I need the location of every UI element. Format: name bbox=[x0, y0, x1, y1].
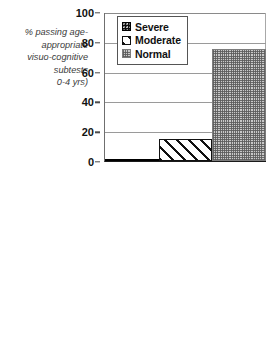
legend-label-severe: Severe bbox=[135, 21, 169, 33]
legend-label-normal: Normal bbox=[135, 48, 171, 60]
y-tick-mark bbox=[95, 161, 100, 162]
legend-swatch-severe-icon bbox=[122, 22, 131, 31]
y-tick-label: 80 bbox=[82, 37, 94, 49]
y-tick-label: 60 bbox=[82, 67, 94, 79]
bar-normal bbox=[212, 49, 266, 161]
y-tick-mark bbox=[95, 42, 100, 43]
legend-item-normal: Normal bbox=[122, 47, 181, 61]
y-tick-mark bbox=[95, 72, 100, 73]
legend-swatch-normal-icon bbox=[122, 49, 131, 58]
chart-panel-bottom: % passing 50% or more visuo-cognitive su… bbox=[0, 175, 277, 350]
y-tick-label: 0 bbox=[88, 156, 94, 168]
bar-severe bbox=[105, 159, 159, 161]
y-tick-mark bbox=[95, 12, 100, 13]
legend-item-severe: Severe bbox=[122, 20, 181, 34]
y-tick-label: 40 bbox=[82, 96, 94, 108]
chart-legend: Severe Moderate Normal bbox=[117, 16, 188, 65]
y-axis-ticks-top: 020406080100 bbox=[62, 13, 100, 162]
y-tick-label: 100 bbox=[76, 7, 94, 19]
chart-panel-top: % passing age- appropriate visuo-cogniti… bbox=[0, 0, 277, 175]
y-tick-label: 20 bbox=[82, 126, 94, 138]
bar-moderate bbox=[159, 139, 213, 161]
legend-label-moderate: Moderate bbox=[135, 34, 181, 46]
legend-item-moderate: Moderate bbox=[122, 34, 181, 48]
y-tick-mark bbox=[95, 131, 100, 132]
y-tick-mark bbox=[95, 102, 100, 103]
legend-swatch-moderate-icon bbox=[122, 36, 131, 45]
